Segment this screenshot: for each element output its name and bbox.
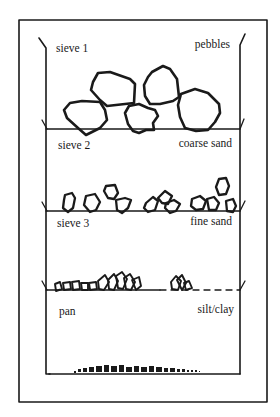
- grain: [84, 194, 100, 212]
- grain: [226, 199, 236, 212]
- sieve-diagram: sieve 1 pebbles sieve 2 coarse sand siev…: [0, 0, 280, 417]
- sieve-3-label: sieve 3: [57, 217, 90, 229]
- grain: [63, 193, 75, 212]
- grain: [55, 282, 62, 291]
- diagram-canvas: sieve 1 pebbles sieve 2 coarse sand siev…: [0, 0, 280, 417]
- pebble: [178, 89, 220, 131]
- coarse-sand-label: coarse sand: [179, 137, 233, 149]
- grain: [144, 197, 158, 212]
- grain: [72, 281, 80, 290]
- sieve-2-label: sieve 2: [58, 139, 91, 151]
- grain: [216, 178, 229, 195]
- grain: [132, 277, 141, 290]
- pebble: [144, 66, 179, 104]
- grain: [63, 282, 71, 290]
- pebble: [64, 101, 107, 135]
- fine-sand-layer: [55, 272, 192, 291]
- inner-right-wall: [240, 34, 245, 374]
- fine-sand-label: fine sand: [190, 215, 232, 227]
- pebbles-label: pebbles: [195, 38, 231, 51]
- pan-label: pan: [59, 305, 76, 318]
- pebbles-layer: [64, 66, 220, 135]
- grain: [207, 197, 219, 210]
- sieve-1-label: sieve 1: [56, 42, 89, 54]
- grain: [184, 281, 192, 290]
- grain: [104, 185, 118, 199]
- grain: [191, 196, 206, 210]
- silt-clay-layer: [74, 365, 200, 373]
- silt-clay-label: silt/clay: [198, 303, 235, 316]
- coarse-sand-layer: [63, 178, 236, 213]
- grain: [89, 282, 97, 290]
- grain: [81, 283, 88, 290]
